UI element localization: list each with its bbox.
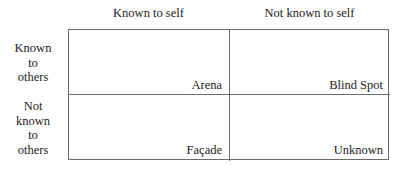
cell-label-arena: Arena <box>70 78 222 92</box>
horizontal-divider <box>68 94 390 95</box>
row-header-not-known-to-others: Not known to others <box>0 99 66 157</box>
row-header-line: Not <box>0 99 66 114</box>
row-header-line: to <box>0 128 66 143</box>
cell-label-facade: Façade <box>70 143 222 157</box>
cell-label-blind-spot: Blind Spot <box>232 78 383 92</box>
cell-label-unknown: Unknown <box>232 143 383 157</box>
column-header-not-known-to-self: Not known to self <box>229 6 390 20</box>
row-header-line: to <box>0 56 66 71</box>
column-header-known-to-self: Known to self <box>68 6 229 20</box>
row-header-line: known <box>0 114 66 129</box>
row-header-known-to-others: Known to others <box>0 41 66 85</box>
row-header-line: Known <box>0 41 66 56</box>
row-header-line: others <box>0 143 66 158</box>
row-header-line: others <box>0 70 66 85</box>
